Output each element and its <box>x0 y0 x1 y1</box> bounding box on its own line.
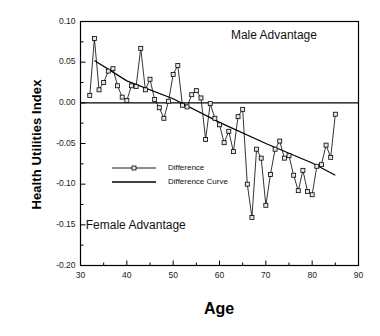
y-axis-tick-label: -0.15 <box>44 219 76 229</box>
difference-data-point <box>287 154 291 158</box>
difference-data-point <box>218 123 222 127</box>
x-axis-tick-label: 80 <box>299 270 325 280</box>
difference-data-point <box>333 112 337 116</box>
difference-data-point <box>171 72 175 76</box>
difference-data-point <box>120 95 124 99</box>
x-axis-tick-label: 40 <box>114 270 140 280</box>
difference-data-point <box>319 163 323 167</box>
annotation-male-advantage: Male Advantage <box>231 28 317 42</box>
difference-data-point <box>148 77 152 81</box>
difference-data-point <box>125 98 129 102</box>
difference-data-point <box>236 115 240 119</box>
difference-data-point <box>180 103 184 107</box>
x-axis-title: Age <box>80 300 358 318</box>
difference-data-point <box>199 96 203 100</box>
y-axis-tick-label: 0.00 <box>44 97 76 107</box>
difference-data-point <box>208 102 212 106</box>
difference-data-point <box>282 156 286 160</box>
legend-label-difference-curve: Difference Curve <box>168 177 228 186</box>
difference-data-point <box>116 84 120 88</box>
difference-data-point <box>306 189 310 193</box>
y-axis-tick-label: -0.05 <box>44 138 76 148</box>
difference-data-point <box>157 106 161 110</box>
difference-data-point <box>268 172 272 176</box>
difference-data-point <box>324 143 328 147</box>
difference-data-point <box>329 155 333 159</box>
chart-figure: Health Utilities Index Age 0.100.050.00-… <box>0 0 380 336</box>
x-axis-tick-label: 60 <box>207 270 233 280</box>
difference-data-point <box>185 105 189 109</box>
difference-data-point <box>259 156 263 160</box>
x-axis-tick-label: 50 <box>160 270 186 280</box>
difference-data-point <box>139 46 143 50</box>
difference-data-point <box>315 164 319 168</box>
y-axis-tick-label: -0.20 <box>44 260 76 270</box>
difference-data-point <box>278 139 282 143</box>
difference-data-point <box>190 93 194 97</box>
difference-data-point <box>162 116 166 120</box>
legend-label-difference: Difference <box>168 163 204 172</box>
difference-data-point <box>88 94 92 98</box>
x-axis-tick-label: 70 <box>253 270 279 280</box>
difference-data-point <box>255 147 259 151</box>
difference-data-point <box>129 84 133 88</box>
difference-data-point <box>296 189 300 193</box>
difference-data-point <box>250 216 254 220</box>
difference-data-point <box>310 193 314 197</box>
x-axis-tick-label: 30 <box>68 270 94 280</box>
y-axis-title: Health Utilities Index <box>29 35 44 255</box>
difference-data-point <box>245 182 249 186</box>
difference-data-point <box>273 147 277 151</box>
difference-data-point <box>134 85 138 89</box>
y-axis-tick-label: 0.10 <box>44 16 76 26</box>
difference-data-point <box>167 99 171 103</box>
difference-data-point <box>292 173 296 177</box>
difference-data-point <box>102 81 106 85</box>
difference-data-point <box>222 141 226 145</box>
difference-data-point <box>227 129 231 133</box>
difference-data-point <box>111 67 115 71</box>
difference-data-point <box>97 88 101 92</box>
difference-data-point <box>194 89 198 93</box>
difference-data-point <box>106 69 110 73</box>
difference-data-point <box>204 137 208 141</box>
difference-data-point <box>213 116 217 120</box>
difference-data-point <box>176 63 180 67</box>
x-axis-tick-label: 90 <box>346 270 372 280</box>
difference-data-point <box>301 168 305 172</box>
y-axis-tick-label: 0.05 <box>44 56 76 66</box>
annotation-female-advantage: Female Advantage <box>86 218 186 232</box>
difference-data-point <box>241 107 245 111</box>
difference-data-point <box>92 37 96 41</box>
difference-data-point <box>153 98 157 102</box>
difference-data-point <box>231 150 235 154</box>
difference-data-point <box>264 203 268 207</box>
difference-data-point <box>143 88 147 92</box>
y-axis-tick-label: -0.10 <box>44 178 76 188</box>
legend-marker-sample <box>132 166 136 170</box>
